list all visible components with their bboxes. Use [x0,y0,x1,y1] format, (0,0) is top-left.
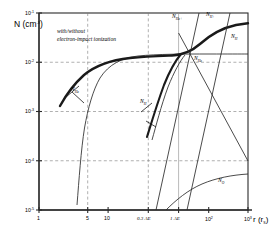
x-tick-label: 102 [205,216,213,222]
annotation-line-1: with/without [57,28,85,34]
y-tick-label: 10-2 [25,59,34,65]
x-tick-label-03ae: 0.3 AE [137,216,151,221]
x-tick-label: 103 [244,216,252,222]
x-tick-label-1ae: 1 AE [170,216,180,221]
y-tick-labels: 10-1 10-2 10-3 10-4 10-5 [25,10,34,213]
chart-svg: N (cm-3) r (rS) 10-1 10-2 10-3 10-4 10-5… [0,0,269,235]
x-tick-label: 10 [104,215,110,221]
x-tick-label: 1 [37,215,40,221]
x-tick-label: 5 [86,215,89,221]
annotation-line-2: electron-impact ionization [57,36,116,42]
y-tick-label: 10-5 [25,207,34,213]
x-tick-labels: 1 5 10 0.3 AE 1 AE 102 103 [37,215,252,222]
y-tick-label: 10-4 [25,158,34,164]
x-axis-title: r (rS) [253,215,269,225]
y-tick-label: 10-1 [25,10,34,16]
figure-container: N (cm-3) r (rS) 10-1 10-2 10-3 10-4 10-5… [0,0,269,235]
y-tick-label: 10-3 [25,108,34,114]
